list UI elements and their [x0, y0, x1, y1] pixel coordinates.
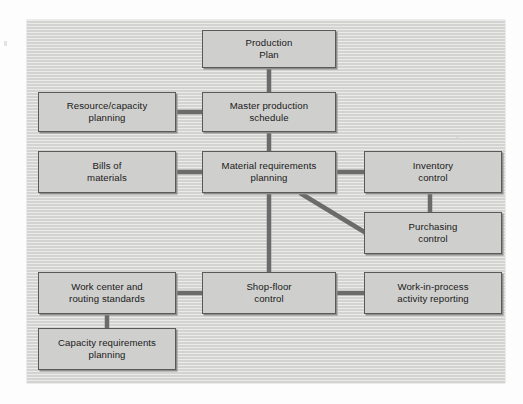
node-label-purchasing-control: Purchasing control: [409, 221, 458, 244]
node-label-inventory-control: Inventory control: [413, 160, 453, 183]
node-production-plan[interactable]: Production Plan: [202, 30, 336, 68]
node-label-bills-of-materials: Bills of materials: [87, 160, 127, 183]
node-shop-floor-control[interactable]: Shop-floor control: [202, 272, 336, 314]
node-label-work-in-process-activity-reporting: Work-in-process activity reporting: [397, 281, 469, 304]
node-work-in-process-activity-reporting[interactable]: Work-in-process activity reporting: [364, 272, 502, 314]
node-work-center-and-routing-standards[interactable]: Work center and routing standards: [38, 272, 176, 314]
node-inventory-control[interactable]: Inventory control: [364, 151, 502, 193]
node-label-shop-floor-control: Shop-floor control: [246, 281, 291, 304]
page-speckle-right: [456, 136, 459, 139]
node-label-master-production-schedule: Master production schedule: [230, 100, 308, 123]
mrp-system-diagram: Production PlanResource/capacity plannin…: [0, 0, 523, 404]
node-label-capacity-requirements-planning: Capacity requirements planning: [58, 337, 156, 360]
node-bills-of-materials[interactable]: Bills of materials: [38, 151, 176, 193]
node-label-material-requirements-planning: Material requirements planning: [222, 160, 317, 183]
node-purchasing-control[interactable]: Purchasing control: [364, 212, 502, 254]
node-label-work-center-and-routing-standards: Work center and routing standards: [69, 281, 145, 304]
node-material-requirements-planning[interactable]: Material requirements planning: [202, 151, 336, 193]
node-capacity-requirements-planning[interactable]: Capacity requirements planning: [38, 328, 176, 370]
node-resource-capacity-planning[interactable]: Resource/capacity planning: [38, 92, 176, 132]
node-label-resource-capacity-planning: Resource/capacity planning: [67, 100, 148, 123]
page-speckle-left: [4, 41, 7, 46]
node-label-production-plan: Production Plan: [246, 37, 293, 60]
node-master-production-schedule[interactable]: Master production schedule: [202, 92, 336, 132]
